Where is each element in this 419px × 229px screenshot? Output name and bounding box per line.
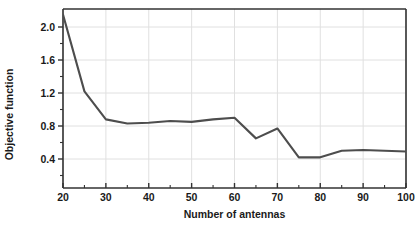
svg-text:20: 20 <box>57 191 69 203</box>
svg-text:1.2: 1.2 <box>40 87 55 99</box>
svg-text:90: 90 <box>357 191 369 203</box>
svg-text:40: 40 <box>143 191 155 203</box>
svg-text:0.8: 0.8 <box>40 120 55 132</box>
line-chart-plot: 0.40.81.21.62.02030405060708090100 <box>0 0 419 229</box>
axis-ticks <box>58 27 406 188</box>
svg-text:30: 30 <box>100 191 112 203</box>
chart-figure: Objective function Number of antennas 0.… <box>0 0 419 229</box>
svg-text:50: 50 <box>186 191 198 203</box>
svg-text:100: 100 <box>397 191 415 203</box>
svg-text:0.4: 0.4 <box>40 153 55 165</box>
svg-text:2.0: 2.0 <box>40 21 55 33</box>
svg-text:70: 70 <box>272 191 284 203</box>
svg-text:60: 60 <box>229 191 241 203</box>
axis-tick-labels: 0.40.81.21.62.02030405060708090100 <box>40 21 415 203</box>
svg-text:80: 80 <box>314 191 326 203</box>
gridlines <box>63 9 406 188</box>
svg-text:1.6: 1.6 <box>40 54 55 66</box>
